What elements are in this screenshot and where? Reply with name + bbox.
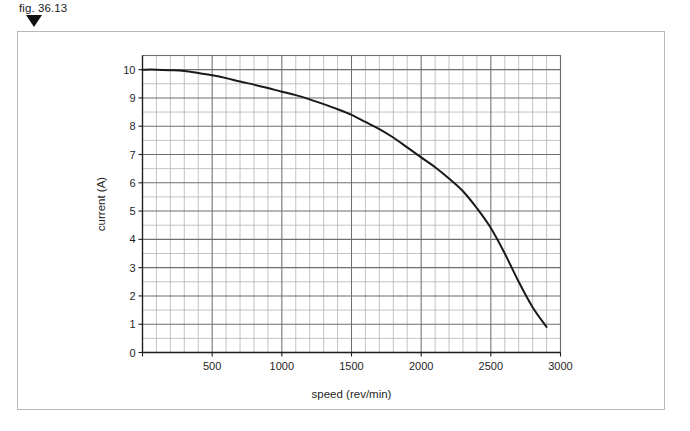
- line-chart: 50010001500200025003000 012345678910 spe…: [0, 0, 690, 431]
- y-tick-label: 1: [129, 318, 135, 330]
- x-tick-label: 1500: [339, 360, 363, 372]
- axis-ticks: [139, 70, 561, 357]
- x-axis-title: speed (rev/min): [312, 388, 392, 400]
- y-tick-label: 6: [129, 177, 135, 189]
- x-tick-labels: 50010001500200025003000: [203, 360, 573, 372]
- x-tick-label: 2000: [409, 360, 433, 372]
- y-tick-label: 0: [129, 347, 135, 359]
- x-tick-label: 500: [203, 360, 221, 372]
- x-tick-label: 3000: [548, 360, 572, 372]
- x-tick-label: 2500: [479, 360, 503, 372]
- y-tick-label: 4: [129, 233, 135, 245]
- y-tick-label: 5: [129, 205, 135, 217]
- y-tick-label: 9: [129, 92, 135, 104]
- y-tick-label: 8: [129, 120, 135, 132]
- chart-container: 50010001500200025003000 012345678910 spe…: [0, 0, 690, 431]
- x-tick-label: 1000: [270, 360, 294, 372]
- data-series-line: [143, 70, 547, 327]
- y-tick-label: 10: [123, 64, 135, 76]
- y-tick-labels: 012345678910: [123, 64, 135, 359]
- y-axis-title: current (A): [95, 177, 107, 231]
- grid-major: [143, 56, 561, 353]
- y-tick-label: 3: [129, 262, 135, 274]
- series-curve: [143, 70, 547, 327]
- y-tick-label: 7: [129, 149, 135, 161]
- y-tick-label: 2: [129, 290, 135, 302]
